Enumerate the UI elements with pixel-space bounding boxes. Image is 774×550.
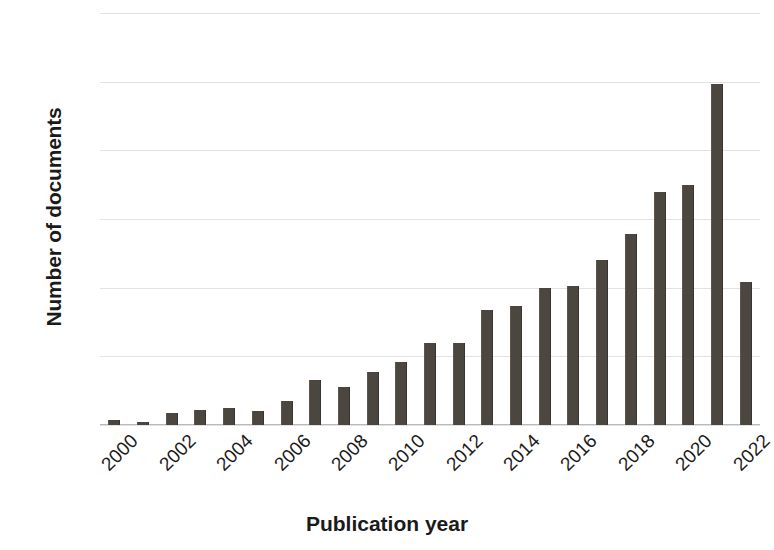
bar-2013	[481, 310, 493, 425]
x-tick-label-2000: 2000	[85, 430, 143, 488]
bar-2007	[309, 380, 321, 425]
bar-2004	[223, 408, 235, 425]
x-tick-label-2018: 2018	[601, 430, 659, 488]
x-axis-title: Publication year	[0, 512, 774, 536]
bar-2011	[424, 343, 436, 425]
bar-2021	[711, 84, 723, 425]
bar-2006	[281, 401, 293, 425]
bar-2020	[682, 185, 694, 425]
bar-2000	[108, 420, 120, 425]
bar-2018	[625, 234, 637, 425]
x-tick-label-2020: 2020	[659, 430, 717, 488]
y-axis-title: Number of documents	[42, 67, 66, 367]
x-tick-label-2006: 2006	[257, 430, 315, 488]
x-tick-label-2022: 2022	[716, 430, 774, 488]
gridline-0	[100, 425, 760, 426]
x-tick-label-2004: 2004	[200, 430, 258, 488]
bar-2001	[137, 422, 149, 425]
bar-2015	[539, 288, 551, 425]
x-tick-label-2010: 2010	[372, 430, 430, 488]
x-axis-tick-labels: 2000200220042006200820102012201420162018…	[100, 430, 760, 510]
x-tick-label-2002: 2002	[142, 430, 200, 488]
bar-chart: Number of documents 0100200300400500600 …	[0, 0, 774, 550]
bar-2008	[338, 387, 350, 425]
x-tick-label-2014: 2014	[487, 430, 545, 488]
bar-2003	[194, 410, 206, 425]
bar-2016	[567, 286, 579, 425]
bar-2010	[395, 362, 407, 425]
bar-2022	[740, 282, 752, 425]
x-tick-label-2008: 2008	[314, 430, 372, 488]
bar-2017	[596, 260, 608, 425]
bar-2012	[453, 343, 465, 425]
bar-2009	[367, 372, 379, 425]
bar-2005	[252, 411, 264, 425]
bar-2019	[654, 192, 666, 425]
bar-2002	[166, 413, 178, 425]
x-tick-label-2016: 2016	[544, 430, 602, 488]
bar-2014	[510, 306, 522, 425]
bars-layer	[100, 13, 760, 425]
x-tick-label-2012: 2012	[429, 430, 487, 488]
